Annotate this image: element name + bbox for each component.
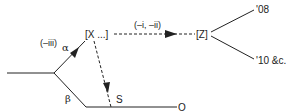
- z-arrowhead-icon: [165, 30, 177, 38]
- node-x: [X ...]: [85, 29, 109, 40]
- node-z: [Z]: [196, 29, 208, 40]
- z-to-10-edge: [211, 36, 254, 59]
- node-08: '08: [256, 4, 269, 15]
- beta-label: β: [65, 93, 71, 104]
- alpha-edge: [54, 41, 85, 73]
- x-to-s-edge: [94, 41, 111, 107]
- alpha-label: α: [62, 42, 69, 53]
- node-s: S: [116, 94, 123, 105]
- xz-annotation: (–i, –ii): [134, 20, 161, 30]
- z-to-08-edge: [211, 10, 254, 32]
- node-10: '10 &c.: [256, 55, 286, 66]
- node-o: O: [178, 102, 186, 112]
- diagram-canvas: (–iii) α β [X ...] (–i, –ii) [Z] S O '08…: [0, 0, 288, 112]
- alpha-arrowhead-icon: [70, 47, 79, 58]
- alpha-annotation: (–iii): [40, 38, 57, 48]
